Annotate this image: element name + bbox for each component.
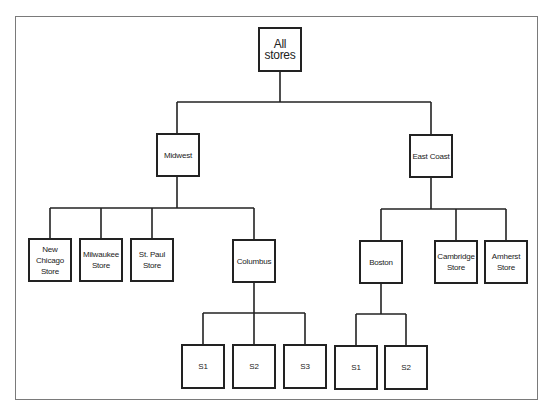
- node-label: Cambridge Store: [437, 251, 474, 273]
- node-label: S2: [401, 362, 410, 373]
- node-label: Midwest: [164, 150, 192, 161]
- node-boston-s2: S2: [384, 345, 428, 390]
- node-boston-s1: S1: [334, 345, 378, 390]
- node-label: S3: [300, 361, 309, 372]
- node-columbus-s1: S1: [181, 344, 225, 389]
- node-label: Milwaukee Store: [83, 249, 119, 271]
- node-label: Columbus: [237, 256, 271, 267]
- node-st-paul-store: St. Paul Store: [130, 238, 174, 282]
- node-columbus-s3: S3: [283, 344, 327, 389]
- node-amherst-store: Amherst Store: [484, 240, 528, 284]
- node-boston: Boston: [359, 240, 403, 284]
- node-label: New Chicago Store: [30, 244, 70, 277]
- node-label: St. Paul Store: [139, 249, 165, 271]
- node-milwaukee-store: Milwaukee Store: [79, 238, 123, 282]
- node-label: S1: [198, 361, 207, 372]
- node-east-coast: East Coast: [409, 134, 453, 178]
- node-label: East Coast: [412, 151, 449, 162]
- node-label: S2: [249, 361, 258, 372]
- node-all-stores: All stores: [258, 27, 302, 72]
- node-label: All stores: [260, 39, 300, 61]
- node-label: Amherst Store: [492, 251, 520, 273]
- node-midwest: Midwest: [156, 133, 200, 177]
- node-columbus-s2: S2: [232, 344, 276, 389]
- node-label: S1: [351, 362, 360, 373]
- node-label: Boston: [369, 257, 393, 268]
- node-cambridge-store: Cambridge Store: [434, 240, 478, 284]
- node-new-chicago-store: New Chicago Store: [28, 238, 72, 282]
- node-columbus: Columbus: [232, 239, 276, 283]
